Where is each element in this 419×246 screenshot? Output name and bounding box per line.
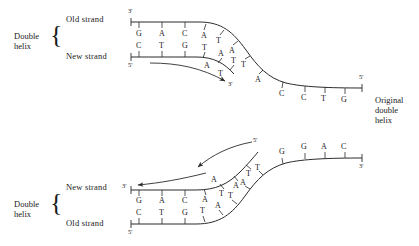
dna-replication-svg xyxy=(0,0,419,246)
bottom-template-start-5prime: 5' xyxy=(253,137,257,144)
base-top-old-3: A xyxy=(201,32,207,40)
base-bot-old-3: T xyxy=(200,207,205,215)
bottom-template-end-3prime: 3' xyxy=(359,163,363,170)
base-top-old-11: G xyxy=(341,96,347,104)
original-label-line2: double xyxy=(375,105,403,115)
original-label-line3: helix xyxy=(375,115,403,125)
base-bot-old-7: T xyxy=(255,164,260,172)
base-top-old-7: A xyxy=(255,76,261,84)
top-old-strand-3prime: 3' xyxy=(128,8,132,15)
base-bot-new-6: T xyxy=(246,170,251,178)
top-new-strand-5prime: 5' xyxy=(128,62,132,69)
base-bot-old-8: G xyxy=(279,148,285,156)
base-bot-old-2: G xyxy=(182,209,188,217)
base-bot-new-1: A xyxy=(159,197,165,205)
base-top-new-3: T xyxy=(202,44,207,52)
diagram-canvas: Double helix { Old strand New strand 3' … xyxy=(0,0,419,246)
bottom-new-strand-3prime: 3' xyxy=(122,183,126,190)
base-top-old-6: T xyxy=(241,61,246,69)
top-group-label: Double helix xyxy=(14,31,39,51)
base-bot-old-6: A xyxy=(240,179,246,187)
top-old-strand xyxy=(131,18,362,94)
base-top-old-5: A xyxy=(229,47,235,55)
base-top-new-2: G xyxy=(182,42,188,50)
base-top-old-4: T xyxy=(216,37,221,45)
top-group-label-line1: Double xyxy=(14,31,39,41)
base-bot-old-0: C xyxy=(136,209,141,217)
bottom-group-label-line1: Double xyxy=(14,199,39,209)
base-top-old-10: T xyxy=(321,95,326,103)
base-top-new-0: C xyxy=(136,42,141,50)
base-bot-new-7: A xyxy=(211,176,217,184)
top-new-strand-end-3prime: 3' xyxy=(228,81,232,88)
base-top-old-8: C xyxy=(279,90,284,98)
base-bot-new-2: C xyxy=(182,197,187,205)
base-bot-old-4: A xyxy=(215,202,221,210)
bottom-brace: { xyxy=(50,190,62,216)
top-growth-arrow xyxy=(150,63,225,81)
base-top-new-1: T xyxy=(159,42,164,50)
top-brace: { xyxy=(50,22,62,48)
base-bot-old-10: A xyxy=(321,143,327,151)
base-bot-new-0: G xyxy=(136,197,142,205)
bottom-group-label-line2: helix xyxy=(14,209,39,219)
base-top-old-1: A xyxy=(159,30,165,38)
bottom-old-strand-label: Old strand xyxy=(66,219,104,228)
base-top-old-0: G xyxy=(136,30,142,38)
base-bot-old-5: T xyxy=(228,192,233,200)
base-top-new-6: A xyxy=(204,62,210,70)
top-group-label-line2: helix xyxy=(14,41,39,51)
bottom-new-strand-label: New strand xyxy=(66,183,107,192)
top-new-strand-label: New strand xyxy=(66,52,107,61)
original-label-line1: Original xyxy=(375,95,403,105)
base-bot-old-9: G xyxy=(301,143,307,151)
base-top-old-2: C xyxy=(182,30,187,38)
base-bot-new-3: A xyxy=(202,196,208,204)
top-old-strand-label: Old strand xyxy=(66,15,104,24)
bottom-old-strand-5prime: 5' xyxy=(128,229,132,236)
base-top-new-5: T xyxy=(231,57,236,65)
base-top-new-4: A xyxy=(218,50,224,58)
bottom-growth-arrow-inner xyxy=(138,173,206,185)
base-top-new-7: T xyxy=(218,70,223,78)
top-template-end-5prime: 5' xyxy=(359,74,363,81)
bottom-group-label: Double helix xyxy=(14,199,39,219)
bottom-growth-arrow-outer xyxy=(198,142,252,167)
base-bot-new-5: A xyxy=(233,182,239,190)
base-top-old-9: C xyxy=(301,94,306,102)
base-bot-new-4: T xyxy=(219,190,224,198)
base-bot-old-11: C xyxy=(341,143,346,151)
original-double-helix-label: Original double helix xyxy=(375,95,403,125)
base-bot-old-1: T xyxy=(159,209,164,217)
